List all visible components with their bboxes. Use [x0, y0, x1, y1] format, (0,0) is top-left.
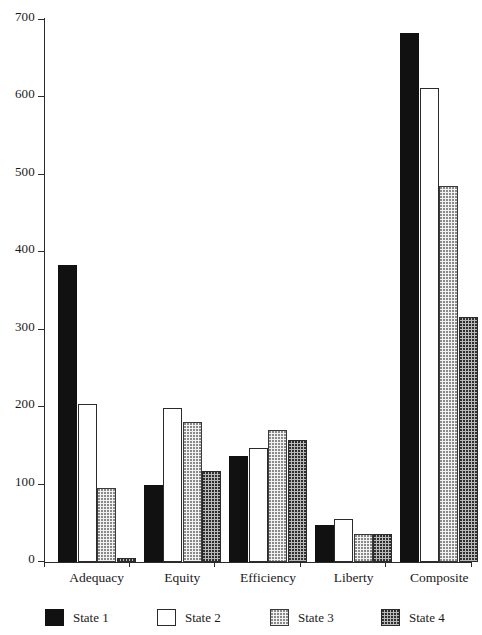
x-axis-category-labels: AdequacyEquityEfficiencyLibertyComposite [44, 570, 472, 592]
x-category-label: Composite [396, 570, 482, 586]
legend-swatch-icon [45, 609, 64, 626]
y-tick-label: 100 [15, 475, 35, 488]
legend-item: State 4 [381, 607, 445, 627]
bar-group [301, 20, 387, 562]
x-tick-mark [44, 562, 45, 567]
bar [459, 317, 478, 562]
y-tick-label: 500 [15, 165, 35, 178]
legend-item: State 1 [45, 607, 109, 627]
x-tick-mark [129, 562, 130, 567]
bar [354, 534, 373, 562]
x-tick-mark [385, 562, 386, 567]
legend-label: State 1 [73, 610, 109, 625]
bar [334, 519, 353, 562]
y-tick-label: 0 [28, 552, 35, 565]
bar [144, 485, 163, 562]
y-tick-label: 300 [15, 320, 35, 333]
legend-swatch-icon [270, 609, 289, 626]
legend-item: State 3 [270, 607, 334, 627]
bar-groups [44, 20, 472, 562]
bar [315, 525, 334, 562]
legend-label: State 2 [185, 610, 221, 625]
bar [78, 404, 97, 562]
legend-label: State 4 [409, 610, 445, 625]
bar [249, 448, 268, 562]
bar [97, 488, 116, 562]
x-category-label: Adequacy [54, 570, 140, 586]
bar [439, 186, 458, 562]
x-tick-mark [214, 562, 215, 567]
bar [58, 265, 77, 562]
bar-group [130, 20, 216, 562]
legend-item: State 2 [157, 607, 221, 627]
bar-group [215, 20, 301, 562]
bar [420, 88, 439, 562]
y-axis-ticks: 0100200300400500600700 [0, 0, 44, 635]
x-tick-mark [300, 562, 301, 567]
y-tick-label: 700 [15, 10, 35, 23]
y-tick-label: 400 [15, 242, 35, 255]
legend-swatch-icon [381, 609, 400, 626]
bar [400, 33, 419, 562]
bar [268, 430, 287, 562]
bar [163, 408, 182, 562]
y-tick-label: 600 [15, 87, 35, 100]
legend-swatch-icon [157, 609, 176, 626]
x-category-label: Efficiency [225, 570, 311, 586]
bar-group [44, 20, 130, 562]
x-axis-line [44, 562, 472, 563]
bar [183, 422, 202, 562]
x-tick-mark [471, 562, 472, 567]
bar-group [386, 20, 472, 562]
legend-label: State 3 [298, 610, 334, 625]
bar [229, 456, 248, 562]
x-category-label: Equity [140, 570, 226, 586]
x-category-label: Liberty [311, 570, 397, 586]
y-tick-label: 200 [15, 397, 35, 410]
chart-legend: State 1State 2State 3State 4 [0, 607, 476, 631]
